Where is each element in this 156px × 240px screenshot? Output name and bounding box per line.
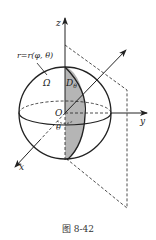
origin-label: O — [55, 108, 63, 118]
z-axis-label: z — [55, 18, 61, 28]
surface-equation-label: r=r(φ, θ) — [17, 51, 53, 60]
x-axis-label: x — [19, 162, 24, 172]
region-label: Ω — [42, 78, 51, 88]
theta-label: θ — [56, 123, 61, 132]
sphere-diagram: z y x O θ Ω Dθ r=r(φ, θ) 图 8-42 — [0, 0, 156, 240]
figure-caption: 图 8-42 — [62, 224, 94, 234]
y-axis-label: y — [139, 116, 146, 126]
